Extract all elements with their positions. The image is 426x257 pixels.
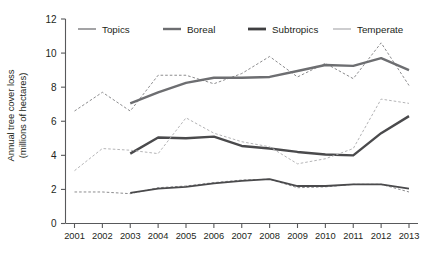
x-tick-label: 2010 [315,231,336,241]
x-tick-label: 2005 [176,231,197,241]
x-tick-label: 2013 [399,231,420,241]
series-lines [75,43,410,194]
x-tick-label: 2007 [231,231,252,241]
x-tick-label: 2011 [343,231,363,241]
x-tick-label: 2002 [92,231,113,241]
legend-label-subtropics: Subtropics [272,24,318,35]
y-axis-ticks: 024681012 [45,14,65,230]
x-tick-label: 2006 [204,231,225,241]
legend-label-temperate: Temperate [357,24,404,35]
series-line-subtropics [130,116,409,155]
y-tick-label: 2 [51,184,57,195]
y-tick-label: 10 [45,48,57,59]
x-tick-label: 2003 [120,231,141,241]
x-tick-label: 2008 [259,231,280,241]
series-line-subtropics-lower [130,179,409,193]
y-tick-label: 4 [51,150,57,161]
legend-label-topics: Topics [102,24,130,35]
line-chart: 024681012 200120022003200420052006200720… [0,0,426,257]
y-tick-label: 0 [51,218,57,229]
x-tick-label: 2004 [148,231,169,241]
y-tick-label: 6 [51,116,57,127]
y-tick-label: 8 [51,82,57,93]
x-tick-label: 2009 [287,231,308,241]
chart-figure: 024681012 200120022003200420052006200720… [0,0,426,257]
series-line-temperate [75,99,410,171]
y-tick-label: 12 [45,14,57,25]
x-tick-label: 2012 [371,231,392,241]
series-line-boreal [130,58,409,103]
x-axis-ticks: 2001200220032004200520062007200820092010… [64,224,419,242]
x-tick-label: 2001 [64,231,85,241]
legend-label-boreal: Boreal [187,24,215,35]
chart-legend: TopicsBorealSubtropicsTemperate [78,24,404,35]
